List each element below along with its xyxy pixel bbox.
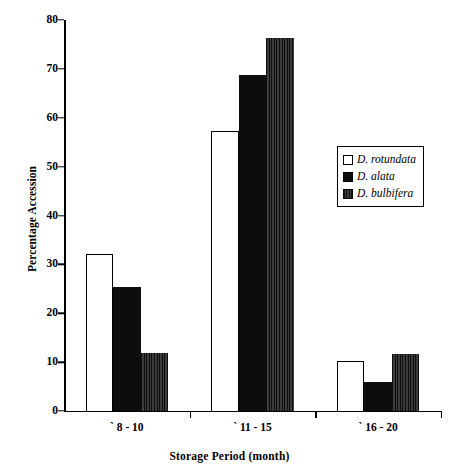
x-axis-title: Storage Period (month) [0,450,459,462]
bar-d-alata [239,75,267,411]
legend-item-d-rotundata: D. rotundata [343,151,416,168]
y-axis-tick-mark [58,68,64,69]
bar-d-rotundata [337,361,365,411]
chart-legend: D. rotundata D. alata D. bulbifera [337,146,424,207]
plot-area [64,20,441,411]
x-axis-tick-mark [315,411,316,418]
y-axis-tick-label: 80 [30,14,58,26]
legend-label-d-alata: D. alata [357,171,395,183]
bar-chart-figure: Percentage Accession 01020304050607080 S… [0,0,459,474]
y-axis-tick-mark [58,361,64,362]
legend-item-d-bulbifera: D. bulbifera [343,185,416,202]
x-axis-tick-mark [441,411,442,418]
y-axis-tick-mark [58,166,64,167]
legend-swatch-icon-d-rotundata [343,155,353,165]
x-axis-tick-label: ` 8 - 10 [67,421,187,433]
y-axis-tick-mark [58,117,64,118]
y-axis-tick-label: 0 [30,405,58,417]
bar-d-bulbifera [392,354,420,411]
bar-d-alata [113,287,141,411]
y-axis-tick-mark [58,313,64,314]
legend-label-d-rotundata: D. rotundata [357,154,416,166]
y-axis-tick-label: 70 [30,63,58,75]
x-axis-tick-label: ` 16 - 20 [318,421,438,433]
y-axis-tick-mark [58,264,64,265]
y-axis-tick-mark [58,19,64,20]
legend-label-d-bulbifera: D. bulbifera [357,188,413,200]
legend-item-d-alata: D. alata [343,168,416,185]
bar-d-bulbifera [266,38,294,411]
y-axis-tick-label: 60 [30,112,58,124]
y-axis-tick-labels: 01020304050607080 [30,0,58,474]
y-axis-tick-label: 50 [30,161,58,173]
y-axis-tick-mark [58,215,64,216]
legend-swatch-icon-d-bulbifera [343,189,353,199]
y-axis-tick-label: 20 [30,308,58,320]
bar-d-rotundata [86,254,114,411]
legend-swatch-icon-d-alata [343,172,353,182]
x-axis-tick-mark [190,411,191,418]
y-axis-tick-label: 10 [30,356,58,368]
y-axis-tick-label: 40 [30,210,58,222]
x-axis-tick-label: ` 11 - 15 [193,421,313,433]
y-axis-tick-label: 30 [30,259,58,271]
bar-d-alata [364,382,392,411]
bar-d-rotundata [211,131,239,411]
y-axis-tick-mark [58,410,64,411]
bar-d-bulbifera [141,353,169,411]
